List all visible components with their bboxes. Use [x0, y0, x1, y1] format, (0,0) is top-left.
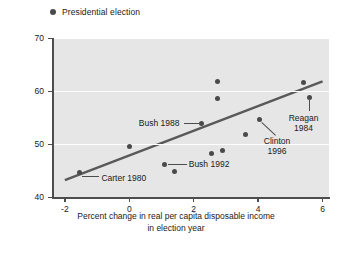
data-point — [301, 80, 306, 85]
annotation-bush-1992: Bush 1992 — [189, 159, 230, 169]
chart-legend: Presidential election — [50, 7, 140, 17]
data-point — [162, 162, 167, 167]
x-tick — [322, 198, 324, 202]
annotation-leader-line — [82, 176, 99, 177]
annotation-bush-1988: Bush 1988 — [139, 118, 180, 128]
annotation-clinton-1996: Clinton 1996 — [264, 136, 290, 156]
trendline — [52, 38, 329, 197]
annotation-leader-line — [168, 164, 187, 165]
legend-label: Presidential election — [62, 7, 140, 17]
annotation-reagan-line2: 1984 — [289, 123, 319, 133]
annotation-reagan-1984: Reagan 1984 — [289, 113, 319, 133]
plot-area: 40506070-20246 — [52, 38, 329, 197]
annotation-reagan-line1: Reagan — [289, 113, 319, 123]
x-tick — [129, 198, 131, 202]
y-tick-label: 60 — [20, 87, 44, 96]
chart-root: Presidential election Percentage of vote… — [0, 0, 352, 254]
gridline — [52, 38, 329, 39]
legend-marker-icon — [50, 9, 56, 15]
annotation-carter-1980: Carter 1980 — [101, 173, 146, 183]
data-point — [77, 170, 82, 175]
x-tick — [257, 198, 259, 202]
annotation-leader-line — [309, 100, 310, 111]
y-tick-label: 40 — [20, 193, 44, 202]
x-axis-title-line2: in election year — [0, 222, 352, 234]
gridline — [52, 91, 329, 92]
data-point — [172, 169, 177, 174]
y-tick-label: 70 — [20, 34, 44, 43]
y-axis-line — [52, 38, 54, 198]
x-axis-line — [52, 197, 330, 199]
y-tick-label: 50 — [20, 140, 44, 149]
annotation-clinton-line1: Clinton — [264, 136, 290, 146]
x-axis-title-line1: Percent change in real per capita dispos… — [0, 210, 352, 222]
x-tick — [193, 198, 195, 202]
data-point — [127, 144, 132, 149]
data-point — [209, 151, 214, 156]
x-axis-title: Percent change in real per capita dispos… — [0, 210, 352, 234]
annotation-clinton-line2: 1996 — [264, 146, 290, 156]
annotation-leader-line — [184, 123, 199, 124]
x-tick — [64, 198, 66, 202]
